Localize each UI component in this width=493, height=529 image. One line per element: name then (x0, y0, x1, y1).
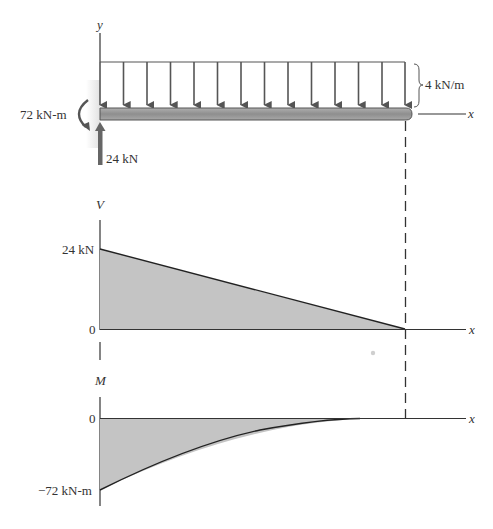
beam (100, 108, 412, 120)
fixed-support-shade (86, 80, 100, 148)
load-intensity-brace-icon (414, 64, 423, 107)
moment-x-axis-label: x (468, 411, 475, 426)
scan-dot-artifact (371, 351, 375, 355)
moment-min-label: −72 kN-m (38, 483, 92, 498)
moment-area (100, 419, 405, 491)
x-axis-label: x (467, 106, 474, 121)
beam-diagram-figure: y 4 kN/m x 72 (0, 0, 493, 529)
shear-diagram: V x 24 kN 0 (62, 197, 475, 360)
moment-axis-label: M (94, 373, 107, 388)
moment-reaction-label: 72 kN-m (20, 107, 67, 122)
moment-zero-label: 0 (89, 411, 96, 426)
force-reaction-label: 24 kN (106, 151, 139, 166)
distributed-load-label: 4 kN/m (425, 77, 464, 92)
y-axis-label: y (95, 17, 103, 32)
shear-max-label: 24 kN (62, 242, 95, 257)
shear-zero-label: 0 (89, 322, 96, 337)
shear-x-axis-label: x (468, 322, 475, 337)
distributed-load-arrows (100, 62, 405, 105)
force-reaction-shaft (98, 130, 103, 165)
shear-axis-label: V (96, 197, 106, 212)
moment-diagram: M x 0 −72 kN-m (38, 373, 475, 506)
